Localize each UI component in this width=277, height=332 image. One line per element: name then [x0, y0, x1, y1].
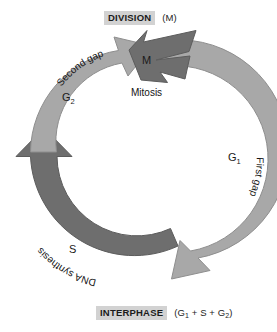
- interphase-note-sub2: 2: [225, 312, 229, 319]
- interphase-note-suffix: ): [229, 307, 232, 318]
- caption-division-note: (M): [162, 12, 177, 23]
- interphase-note-sub1: 1: [185, 312, 189, 319]
- phase-symbol-s: S: [69, 243, 76, 255]
- cell-cycle-diagram: First gap DNA synthesis Second gap M G1 …: [0, 0, 277, 332]
- interphase-note-prefix: (G: [174, 307, 185, 318]
- phase-symbol-m: M: [142, 54, 151, 66]
- caption-interphase-title: INTERPHASE: [96, 306, 167, 320]
- caption-interphase-note: (G1 + S + G2): [174, 307, 232, 318]
- cycle-ring-graphic: First gap DNA synthesis Second gap M G1 …: [0, 0, 277, 332]
- caption-division-title: DIVISION: [104, 11, 155, 25]
- phase-band-m: [129, 31, 196, 83]
- caption-division: DIVISION (M): [104, 11, 177, 25]
- caption-interphase: INTERPHASE (G1 + S + G2): [96, 306, 232, 320]
- interphase-note-mid: + S + G: [189, 307, 225, 318]
- phase-name-s-curved: DNA synthesis: [35, 246, 97, 289]
- phase-symbol-g1: G1: [228, 151, 241, 166]
- phase-name-mitosis: Mitosis: [131, 87, 162, 98]
